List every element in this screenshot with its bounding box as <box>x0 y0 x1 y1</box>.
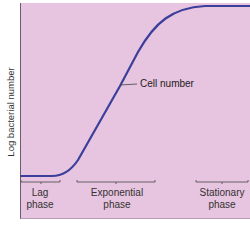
callout-leader-line <box>120 84 137 85</box>
phase-brackets <box>21 180 248 184</box>
cell-number-curve <box>21 6 250 176</box>
y-axis-label: Log bacterial number <box>5 67 16 156</box>
phase-label-line1: Stationary <box>199 187 244 199</box>
lag-bracket <box>21 180 60 182</box>
lag-phase-label: Lag phase <box>26 187 53 211</box>
exponential-bracket <box>77 180 155 182</box>
phase-label-line2: phase <box>91 199 143 211</box>
phase-label-line1: Lag <box>26 187 53 199</box>
phase-label-line2: phase <box>26 199 53 211</box>
cell-number-label: Cell number <box>140 78 194 89</box>
phase-label-line2: phase <box>199 199 244 211</box>
exponential-phase-label: Exponential phase <box>91 187 143 211</box>
phase-label-line1: Exponential <box>91 187 143 199</box>
stationary-bracket <box>196 180 248 182</box>
stationary-phase-label: Stationary phase <box>199 187 244 211</box>
